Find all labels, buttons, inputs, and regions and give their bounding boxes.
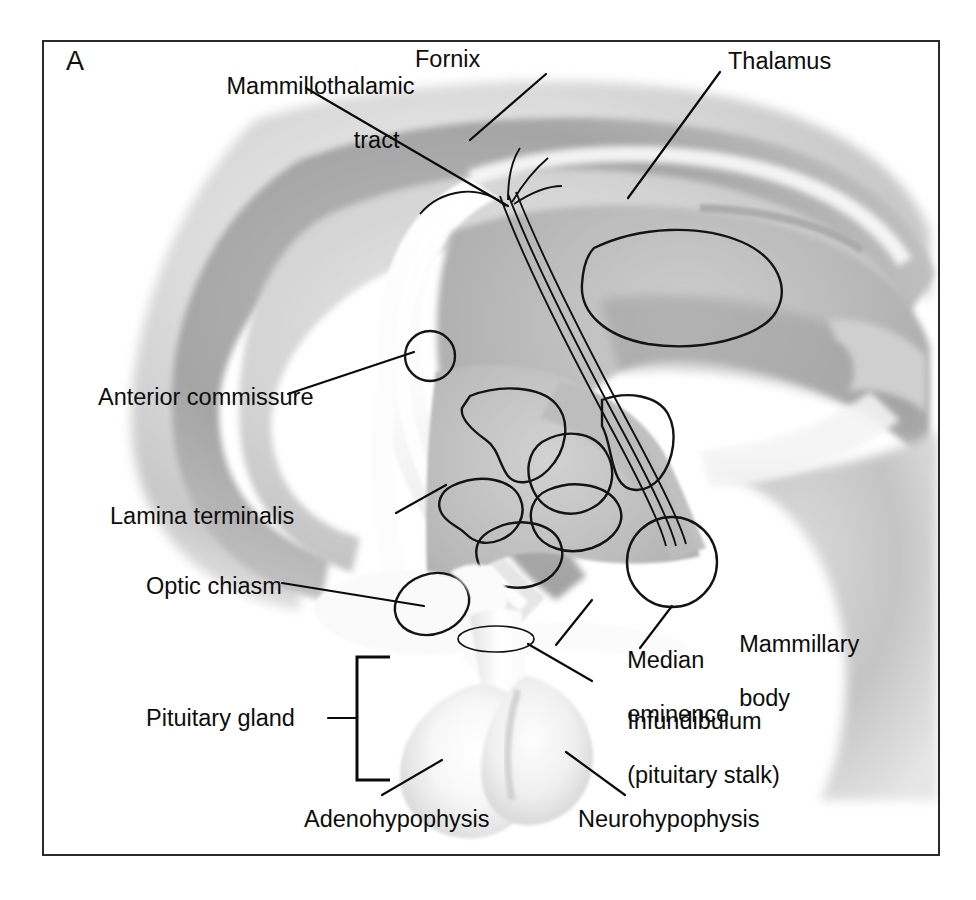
- label-thalamus: Thalamus: [728, 48, 831, 75]
- label-fornix: Fornix: [415, 46, 480, 73]
- label-anterior-commissure: Anterior commissure: [98, 384, 313, 411]
- label-optic-chiasm: Optic chiasm: [146, 573, 282, 600]
- label-median-eminence-line1: Median: [627, 647, 704, 673]
- label-pituitary-gland: Pituitary gland: [146, 705, 295, 732]
- label-mammillothalamic-tract-line2: tract: [354, 127, 400, 154]
- panel-letter: A: [66, 46, 85, 77]
- label-lamina-terminalis: Lamina terminalis: [110, 503, 294, 530]
- figure-root: A Mammillothalamic tract Fornix Thalamus…: [0, 0, 976, 900]
- label-infundibulum-line1: Infundibulum: [627, 708, 762, 734]
- label-infundibulum: Infundibulum (pituitary stalk): [601, 681, 780, 816]
- label-adenohypophysis: Adenohypophysis: [304, 806, 490, 833]
- label-infundibulum-line2: (pituitary stalk): [627, 762, 780, 788]
- label-mammillothalamic-tract-line1: Mammillothalamic: [227, 73, 415, 99]
- label-neurohypophysis: Neurohypophysis: [578, 806, 760, 833]
- label-mammillary-body-line1: Mammillary: [739, 631, 859, 657]
